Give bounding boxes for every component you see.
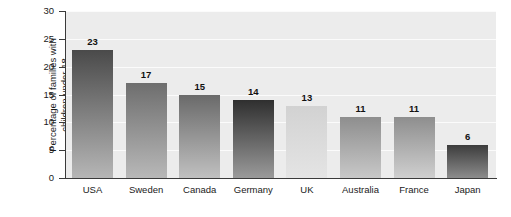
y-axis-tick	[59, 178, 65, 179]
bar-value-label: 11	[394, 104, 435, 114]
x-axis-line	[59, 178, 497, 179]
x-axis-category-label: Germany	[223, 184, 284, 195]
bar	[179, 95, 220, 179]
bar-value-label: 13	[286, 93, 327, 103]
y-axis-tick-label: 10	[32, 117, 54, 127]
bar-value-label: 23	[72, 37, 113, 47]
gridline	[66, 39, 496, 40]
x-axis-category-label: USA	[62, 184, 123, 195]
bar	[233, 100, 274, 178]
y-axis-tick-label: 0	[32, 173, 54, 183]
bar-value-label: 14	[233, 87, 274, 97]
x-axis-category-label: UK	[276, 184, 337, 195]
x-axis-category-label: France	[384, 184, 445, 195]
bar-value-label: 17	[126, 70, 167, 80]
x-axis-category-label: Sweden	[116, 184, 177, 195]
bar	[447, 145, 488, 178]
bar	[394, 117, 435, 178]
bar	[72, 50, 113, 178]
x-axis-category-label: Australia	[330, 184, 391, 195]
y-axis-tick	[59, 150, 65, 151]
y-axis-line	[65, 11, 66, 179]
bar-value-label: 11	[340, 104, 381, 114]
gridline	[66, 11, 496, 12]
bar-value-label: 15	[179, 82, 220, 92]
gridline	[66, 67, 496, 68]
bar	[286, 106, 327, 178]
y-axis-tick-label: 15	[32, 90, 54, 100]
bar-value-label: 6	[447, 132, 488, 142]
y-axis-tick	[59, 67, 65, 68]
y-axis-tick-label: 20	[32, 62, 54, 72]
y-axis-tick-label: 30	[32, 6, 54, 16]
y-axis-tick-label: 5	[32, 145, 54, 155]
y-axis-tick-label: 25	[32, 34, 54, 44]
y-axis-tick	[59, 39, 65, 40]
x-axis-category-label: Japan	[437, 184, 498, 195]
bar	[126, 83, 167, 178]
y-axis-tick	[59, 95, 65, 96]
bar	[340, 117, 381, 178]
y-axis-tick	[59, 122, 65, 123]
x-axis-category-label: Canada	[169, 184, 230, 195]
y-axis-tick	[59, 11, 65, 12]
bar-chart: Percentage of families with children und…	[0, 0, 511, 217]
